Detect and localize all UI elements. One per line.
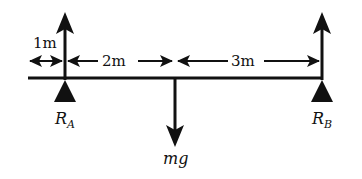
dimension-label-2m: 2m [102,52,126,70]
label-ra: RA [54,109,75,131]
label-rb: RB [311,109,332,131]
support-a-triangle-icon [54,80,76,102]
label-mg: mg [163,149,188,168]
reaction-a-arrow-icon [56,12,74,80]
beam-diagram: 1m 2m 3m RA RB mg [0,0,362,179]
dimension-label-1m: 1m [33,34,57,52]
reaction-b-arrow-icon [313,12,331,80]
support-b-triangle-icon [311,80,333,102]
weight-arrow-icon [166,78,184,147]
dimension-1m-arrow-icon [29,55,63,67]
dimension-label-3m: 3m [231,52,255,70]
